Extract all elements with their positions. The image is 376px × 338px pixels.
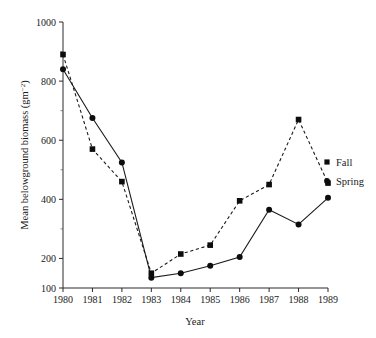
data-point-spring-1980 bbox=[60, 66, 66, 72]
x-tick-label: 1986 bbox=[230, 294, 250, 305]
y-tick-label: 800 bbox=[41, 76, 56, 87]
series-markers-group bbox=[60, 52, 331, 281]
data-point-fall-1987 bbox=[266, 182, 272, 188]
data-point-spring-1982 bbox=[119, 159, 125, 165]
x-tick-label: 1985 bbox=[200, 294, 220, 305]
x-tick-label: 1984 bbox=[171, 294, 191, 305]
y-tick-label: 400 bbox=[41, 194, 56, 205]
legend-label-fall: Fall bbox=[336, 157, 352, 168]
x-tick-label: 1988 bbox=[289, 294, 309, 305]
data-point-fall-1984 bbox=[178, 251, 184, 257]
legend-marker-fall-icon bbox=[324, 159, 329, 164]
x-axis-ticks bbox=[63, 288, 328, 292]
data-point-fall-1981 bbox=[90, 146, 96, 152]
data-point-fall-1985 bbox=[207, 242, 213, 248]
y-axis-tick-labels: 1000800600400200100 bbox=[36, 17, 56, 294]
y-tick-label: 100 bbox=[41, 283, 56, 294]
data-point-spring-1985 bbox=[207, 263, 213, 269]
data-point-spring-1983 bbox=[148, 275, 154, 281]
svg-text:Mean belowground biomass (gm−2: Mean belowground biomass (gm−2) bbox=[19, 80, 31, 230]
legend-label-spring: Spring bbox=[336, 176, 365, 187]
x-axis-tick-labels: 1980198119821983198419851986198719881989 bbox=[53, 294, 338, 305]
axes-group bbox=[63, 22, 328, 288]
x-tick-label: 1983 bbox=[141, 294, 161, 305]
data-point-fall-1986 bbox=[237, 198, 243, 204]
data-point-spring-1987 bbox=[266, 207, 272, 213]
y-tick-label: 600 bbox=[41, 135, 56, 146]
x-tick-label: 1987 bbox=[259, 294, 279, 305]
data-point-fall-1988 bbox=[296, 117, 302, 123]
series-lines-group bbox=[63, 55, 328, 278]
chart-figure: 1000800600400200100 19801981198219831984… bbox=[0, 0, 376, 338]
series-line-spring bbox=[63, 69, 328, 277]
y-tick-label: 1000 bbox=[36, 17, 56, 28]
chart-plot-area: 1000800600400200100 19801981198219831984… bbox=[0, 0, 376, 338]
x-tick-label: 1980 bbox=[53, 294, 73, 305]
x-tick-label: 1981 bbox=[82, 294, 102, 305]
data-point-fall-1982 bbox=[119, 179, 125, 185]
y-tick-label: 200 bbox=[41, 253, 56, 264]
data-point-spring-1989 bbox=[325, 195, 331, 201]
x-tick-label: 1982 bbox=[112, 294, 132, 305]
y-axis-title: Mean belowground biomass (gm−2) bbox=[19, 80, 31, 230]
series-line-fall bbox=[63, 55, 328, 274]
legend-marker-spring-icon bbox=[324, 178, 330, 184]
data-point-spring-1981 bbox=[89, 115, 95, 121]
data-point-spring-1988 bbox=[296, 221, 302, 227]
data-point-spring-1986 bbox=[237, 254, 243, 260]
data-point-spring-1984 bbox=[178, 270, 184, 276]
x-tick-label: 1989 bbox=[318, 294, 338, 305]
data-point-fall-1980 bbox=[60, 52, 66, 58]
x-axis-title: Year bbox=[185, 316, 205, 327]
y-axis-ticks bbox=[59, 22, 63, 288]
